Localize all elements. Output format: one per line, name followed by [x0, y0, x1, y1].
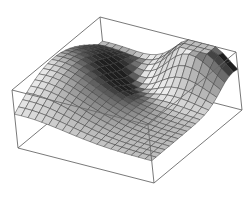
surface-plot — [0, 0, 249, 215]
surface-mesh — [15, 40, 238, 161]
box-edge — [236, 52, 242, 110]
box-edge — [12, 90, 18, 148]
